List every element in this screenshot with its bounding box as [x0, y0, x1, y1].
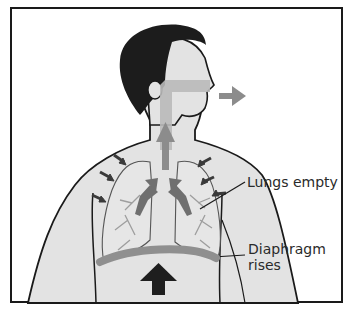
ear — [148, 81, 162, 99]
diaphragm-label-line2: rises — [248, 257, 326, 273]
lungs-empty-label: Lungs empty — [247, 174, 338, 190]
diaphragm-rises-label: Diaphragm rises — [248, 241, 326, 273]
exhale-arrow-icon — [219, 86, 246, 106]
diaphragm-label-line1: Diaphragm — [248, 241, 326, 257]
